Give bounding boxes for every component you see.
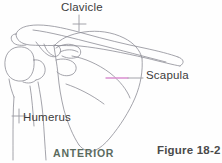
label-humerus: Humerus bbox=[23, 112, 71, 124]
anatomy-figure: Clavicle Scapula Humerus ANTERIOR Figure… bbox=[0, 0, 222, 163]
scapula-bone-outline bbox=[54, 31, 142, 151]
label-clavicle: Clavicle bbox=[61, 2, 103, 14]
acromion-and-coracoid bbox=[36, 42, 81, 58]
figure-caption: Figure 18-2 bbox=[157, 145, 221, 157]
clavicle-leader-line bbox=[73, 15, 86, 31]
humerus-bone-outline bbox=[5, 47, 46, 160]
shoulder-girdle-line-drawing bbox=[0, 0, 222, 163]
label-scapula: Scapula bbox=[146, 70, 189, 82]
orientation-label-anterior: ANTERIOR bbox=[53, 148, 114, 159]
